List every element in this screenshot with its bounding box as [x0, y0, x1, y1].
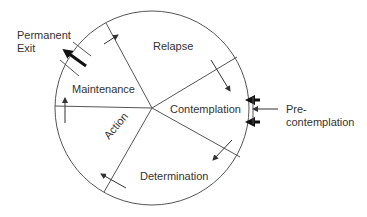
permanent-exit-label-line2: Exit — [17, 42, 35, 54]
permanent-exit-arrow — [68, 53, 86, 66]
permanent-exit-label-line1: Permanent — [17, 29, 71, 41]
stage-label-relapse: Relapse — [153, 40, 193, 52]
spoke-action-maintenance — [55, 106, 152, 108]
exit-tick-upper — [73, 42, 91, 56]
spoke-contemplation-determination — [152, 108, 240, 157]
stage-label-contemplation: Contemplation — [170, 103, 241, 115]
pre-contemplation-label-line2: contemplation — [286, 116, 355, 128]
arrow-maintenance-to-relapse — [104, 35, 118, 44]
exit-tick-lower — [60, 60, 79, 76]
pre-contemplation-entry — [252, 97, 278, 124]
arrow-relapse-to-contemplation — [211, 60, 230, 91]
stages-of-change-diagram: Relapse Contemplation Determination Acti… — [0, 0, 367, 217]
stage-label-determination: Determination — [140, 170, 208, 182]
stage-label-action: Action — [101, 110, 130, 141]
stage-label-maintenance: Maintenance — [72, 83, 135, 95]
spoke-relapse-maintenance — [106, 23, 152, 108]
pre-contemplation-label-line1: Pre- — [286, 103, 307, 115]
